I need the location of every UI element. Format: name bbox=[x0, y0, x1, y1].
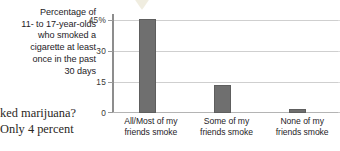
x-axis-label-none: None of my friends smoke bbox=[264, 116, 340, 146]
x-axis-label-line: All/Most of my bbox=[113, 116, 189, 127]
x-axis-label-line: friends smoke bbox=[113, 127, 189, 138]
body-text-line: Only 4 percent bbox=[0, 122, 104, 138]
y-axis-tick bbox=[108, 20, 113, 21]
y-axis-line bbox=[112, 14, 114, 112]
caption-line: cigarette at least bbox=[0, 42, 96, 54]
x-axis-labels: All/Most of my friends smoke Some of my … bbox=[113, 116, 340, 146]
x-axis-label-line: None of my bbox=[264, 116, 340, 127]
caption-line: 11- to 17-year-olds bbox=[0, 19, 96, 31]
y-axis-tick-label: 30 bbox=[96, 46, 106, 56]
bar-some-of-my-friends-smoke[interactable] bbox=[214, 85, 231, 113]
x-axis-label-some: Some of my friends smoke bbox=[189, 116, 265, 146]
caption-line: who smoked a bbox=[0, 30, 96, 42]
y-axis-tick bbox=[108, 51, 113, 52]
chart-figure: Percentage of 11- to 17-year-olds who sm… bbox=[0, 0, 340, 151]
scan-artifact-chevron-icon bbox=[131, 0, 153, 10]
y-axis-tick-label: 0 bbox=[101, 108, 106, 118]
caption-line: once in the past bbox=[0, 54, 96, 66]
y-axis-tick bbox=[108, 82, 113, 83]
y-axis-tick-label: 45% bbox=[89, 15, 106, 25]
chart-title-caption: Percentage of 11- to 17-year-olds who sm… bbox=[0, 7, 96, 77]
bar-all-most-of-my-friends-smoke[interactable] bbox=[139, 19, 156, 113]
bar-none-of-my-friends-smoke[interactable] bbox=[289, 109, 306, 113]
y-axis-tick bbox=[108, 112, 113, 113]
caption-line: 30 days bbox=[0, 66, 96, 78]
caption-line: Percentage of bbox=[0, 7, 96, 19]
x-axis-label-line: Some of my bbox=[189, 116, 265, 127]
y-axis-tick-label: 15 bbox=[96, 77, 106, 87]
x-axis-label-all-most: All/Most of my friends smoke bbox=[113, 116, 189, 146]
plot-area bbox=[108, 14, 340, 113]
y-axis-labels: 45% 30 15 0 bbox=[84, 14, 106, 113]
x-axis-label-line: friends smoke bbox=[189, 127, 265, 138]
x-axis-label-line: friends smoke bbox=[264, 127, 340, 138]
